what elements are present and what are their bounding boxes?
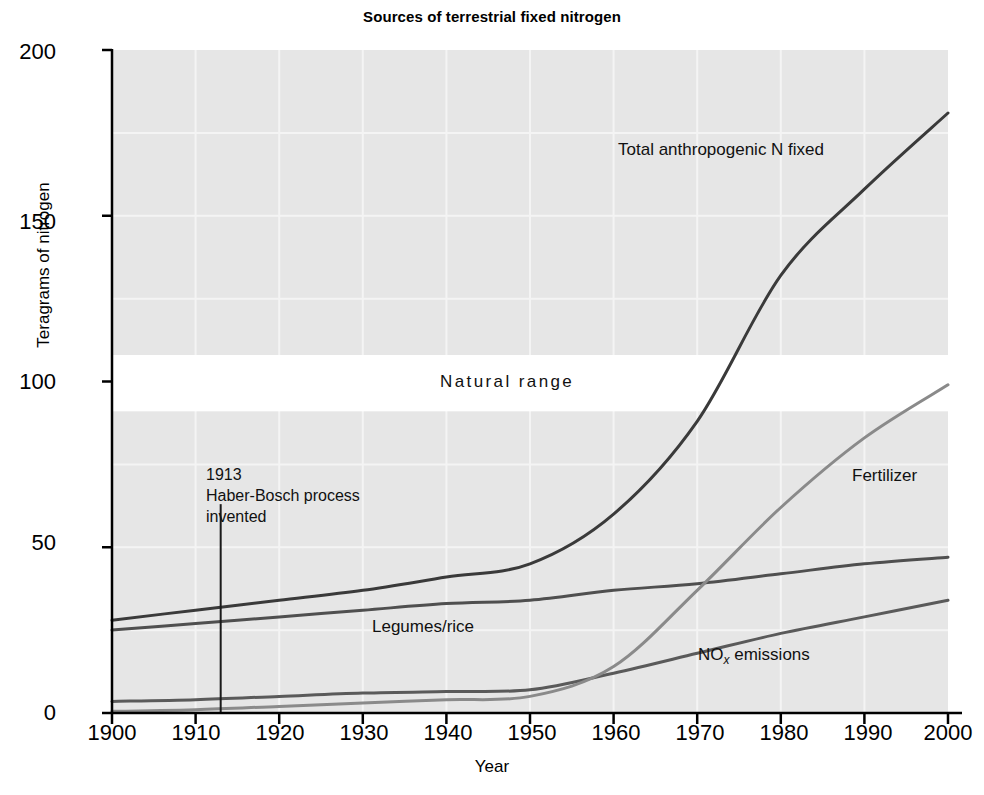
natural-range-label: Natural range: [440, 372, 574, 392]
series-label-legumes: Legumes/rice: [372, 617, 474, 637]
nox-suffix: emissions: [730, 645, 810, 664]
nox-prefix: NO: [698, 645, 724, 664]
nitrogen-sources-chart: Sources of terrestrial fixed nitrogen Te…: [0, 0, 984, 795]
annot-text-1: Haber-Bosch process: [206, 485, 360, 506]
y-tick-marks: [102, 50, 112, 713]
x-tick-marks: [112, 713, 948, 724]
annot-year: 1913: [206, 464, 360, 485]
chart-canvas: [0, 0, 984, 795]
haber-bosch-annotation: 1913 Haber-Bosch process invented: [206, 464, 360, 527]
annot-text-2: invented: [206, 506, 360, 527]
series-label-fertilizer: Fertilizer: [852, 466, 917, 486]
series-label-nox: NOx emissions: [698, 645, 810, 667]
series-label-total: Total anthropogenic N fixed: [618, 140, 824, 160]
